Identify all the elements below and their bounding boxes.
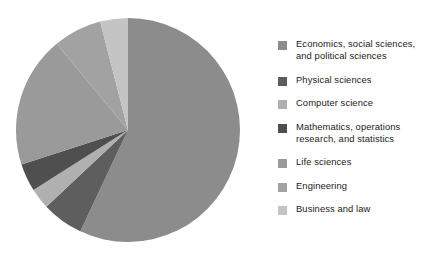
legend-item-label: Computer science (296, 97, 373, 109)
legend-swatch-icon (278, 206, 287, 215)
legend-swatch-icon (278, 77, 287, 86)
pie-chart-svg (16, 18, 240, 242)
legend-item[interactable]: Life sciences (278, 156, 442, 168)
legend-swatch-icon (278, 41, 287, 50)
legend-item[interactable]: Economics, social sciences, and politica… (278, 38, 442, 63)
pie-chart-plot-area (16, 18, 240, 242)
legend-item-label: Physical sciences (296, 74, 372, 86)
legend-swatch-icon (278, 183, 287, 192)
legend-item[interactable]: Mathematics, operations research, and st… (278, 121, 442, 146)
legend-item[interactable]: Computer science (278, 97, 442, 109)
legend-item[interactable]: Engineering (278, 180, 442, 192)
legend-item-label: Business and law (296, 203, 370, 215)
legend-swatch-icon (278, 159, 287, 168)
legend-item-label: Life sciences (296, 156, 351, 168)
legend-item-label: Engineering (296, 180, 347, 192)
legend-swatch-icon (278, 124, 287, 133)
legend-item-label: Mathematics, operations research, and st… (296, 121, 400, 146)
pie-chart-figure: Economics, social sciences, and politica… (0, 0, 444, 256)
legend-swatch-icon (278, 100, 287, 109)
legend-item-label: Economics, social sciences, and politica… (296, 38, 415, 63)
chart-legend: Economics, social sciences, and politica… (278, 38, 442, 227)
legend-item[interactable]: Physical sciences (278, 74, 442, 86)
legend-item[interactable]: Business and law (278, 203, 442, 215)
